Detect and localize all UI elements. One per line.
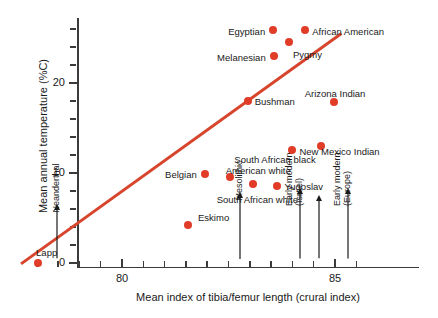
- data-point-label: Arizona Indian: [305, 88, 366, 99]
- data-point[interactable]: [244, 97, 252, 105]
- scatter-plot-figure: 010208085 Mean annual temperature (%C) M…: [0, 0, 438, 318]
- data-point-label: Pygmy: [293, 49, 322, 60]
- data-point-label: Yugoslav: [284, 181, 323, 192]
- data-point[interactable]: [201, 170, 209, 178]
- data-point[interactable]: [34, 259, 42, 267]
- annotation-label-line2: (Europe): [341, 171, 351, 206]
- data-point-label: South African white: [217, 194, 298, 205]
- data-point-label: Eskimo: [198, 212, 229, 223]
- annotation-label-line1: Early modern: [332, 152, 342, 206]
- data-point[interactable]: [330, 98, 338, 106]
- annotation-label: Early modern(Europe): [333, 152, 352, 206]
- annotation-label-line1: Neanderthal: [50, 164, 60, 213]
- data-point-label: Melanesian: [217, 52, 266, 63]
- data-point-label: Egyptian: [228, 26, 265, 37]
- data-point[interactable]: [249, 180, 257, 188]
- data-point-label: New Mexico Indian: [299, 146, 379, 157]
- data-point-label: African American: [312, 26, 384, 37]
- data-point[interactable]: [288, 146, 296, 154]
- trend-line: [0, 0, 438, 318]
- annotation-arrow: [312, 194, 326, 262]
- data-point-label: American white: [226, 165, 291, 176]
- data-point-label: Bushman: [255, 96, 295, 107]
- annotation-label: Neanderthal: [51, 164, 61, 213]
- data-point-label: Belgian: [165, 169, 197, 180]
- data-point-label: Lapp: [36, 247, 57, 258]
- data-point[interactable]: [285, 38, 293, 46]
